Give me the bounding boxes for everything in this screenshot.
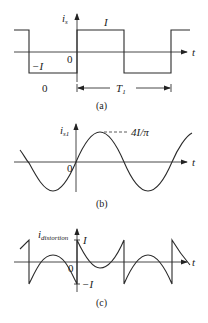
tick-high-label: I: [82, 234, 88, 246]
peak-label: 4I/π: [131, 126, 149, 138]
panel-b-caption: (b): [96, 198, 108, 210]
panel-b-y-label: is1: [60, 124, 69, 138]
panel-b-fundamental: 4I/π is1 t 0 (b): [14, 124, 196, 210]
tick-low-label: −I: [82, 278, 94, 290]
panel-a-origin-label: 0: [67, 53, 73, 65]
panel-a-square-wave: is t 0 I −I 0 T1 (a): [14, 12, 196, 112]
panel-a-y-label: is: [62, 12, 68, 26]
panel-c-y-label: idistortion: [38, 228, 69, 242]
panel-c-distortion: idistortion t 0 I −I (c): [14, 228, 196, 309]
panel-a-x-label: t: [192, 46, 196, 58]
fundamental-sine-trace: [20, 132, 192, 191]
panel-c-origin-label: 0: [68, 262, 74, 274]
waveform-diagram: is t 0 I −I 0 T1 (a) 4I/π is1 t 0 (b) id…: [0, 0, 208, 323]
panel-b-x-label: t: [192, 156, 196, 168]
panel-a-zero-label: 0: [42, 82, 48, 94]
panel-b-origin-label: 0: [67, 162, 73, 174]
level-high-label: I: [103, 16, 109, 28]
panel-c-x-label: t: [192, 256, 196, 268]
level-low-label: −I: [32, 60, 44, 72]
panel-c-caption: (c): [96, 297, 107, 309]
period-label: T1: [116, 82, 126, 96]
panel-a-caption: (a): [96, 100, 107, 112]
